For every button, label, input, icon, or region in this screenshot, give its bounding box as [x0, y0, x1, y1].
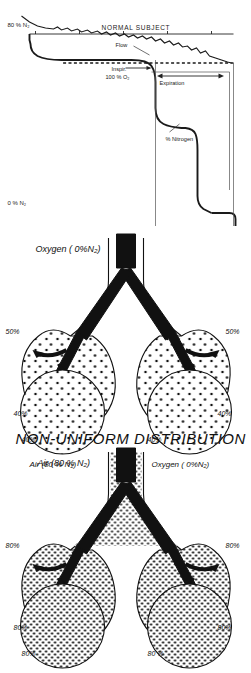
- air-pct-upper-outer: 80%: [225, 542, 239, 549]
- main-caption: NON-UNIFORM DISTRIBUTION: [15, 430, 245, 447]
- expiration-label: Expiration: [159, 80, 184, 86]
- chart-title: NORMAL SUBJECT: [101, 24, 170, 31]
- air-lung-svg: [0, 446, 251, 664]
- flow-label: Flow: [115, 42, 127, 48]
- oxygen-caption: Oxygen ( 0%N₂): [35, 244, 100, 254]
- inspiration-label-line1: Inspir.: [111, 66, 126, 72]
- oxygen-pct-upper-outer: 50%: [225, 328, 239, 335]
- inspiration-arrow: [125, 66, 151, 70]
- oxygen-lung-svg: [0, 232, 251, 450]
- y-axis-bottom-label: 0 % N₂: [7, 200, 26, 206]
- oxygen-pct-lower-inner: 40%: [13, 410, 27, 417]
- y-axis-top-label: 80 % N₂: [7, 22, 29, 28]
- air-pct-upper-inner: 80%: [217, 624, 231, 631]
- nitrogen-washout-chart: NORMAL SUBJECT Flow Expiration Inspir. 1…: [0, 0, 251, 230]
- air-pct-lower-inner: 80%: [13, 624, 27, 631]
- air-pct-upper-circle: 80 %: [147, 650, 163, 657]
- chart-svg: [0, 0, 251, 230]
- expiration-arrow: [157, 74, 224, 79]
- nitrogen-trace: [29, 34, 211, 213]
- inspiration-label-line2: 100 % O₂: [105, 74, 129, 80]
- trace-end-stub: [211, 213, 235, 226]
- oxygen-pct-lower-outer: 50%: [5, 328, 19, 335]
- sub-caption-oxygen: Oxygen ( 0%N₂): [151, 460, 209, 469]
- oxygen-pct-upper-inner: 40%: [217, 410, 231, 417]
- sub-caption-air: Air (80 % N₂): [29, 460, 76, 469]
- oxygen-lung-diagram: Oxygen ( 0%N₂) 50% 40% 40% 50% 40% 40%: [0, 232, 251, 450]
- air-pct-lower-circle: 80%: [21, 650, 35, 657]
- bronchial-tree: [38, 234, 213, 386]
- air-pct-lower-outer: 80%: [5, 542, 19, 549]
- flow-leader-line: [133, 46, 149, 55]
- nitrogen-label: % Nitrogen: [165, 136, 193, 142]
- air-lung-diagram: Air (80 % N₂) 80% 80% 80 % 80% 80% 80%: [0, 446, 251, 664]
